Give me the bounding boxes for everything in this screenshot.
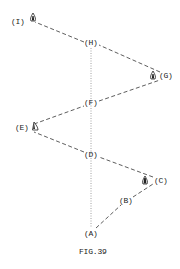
dashed-segment-d-e bbox=[34, 132, 84, 152]
dashed-segment-c-d bbox=[99, 157, 153, 177]
drop-shaped-marker-icon bbox=[151, 71, 156, 79]
dashed-segment-a-b bbox=[96, 205, 121, 228]
point-label-e: (E) bbox=[15, 124, 29, 132]
point-label-h: (H) bbox=[84, 39, 98, 47]
point-label-c: (C) bbox=[154, 177, 168, 185]
dashed-segment-g-h bbox=[99, 45, 160, 72]
drop-shaped-marker-icon bbox=[143, 176, 148, 184]
figure-canvas: (I) (H) (G) (F) (E) (D) (C) (B) (A) FIG.… bbox=[0, 0, 180, 269]
point-label-a: (A) bbox=[84, 230, 98, 238]
point-label-i: (I) bbox=[11, 18, 25, 26]
dashed-segment-b-c bbox=[133, 184, 153, 197]
drop-shaped-marker-icon bbox=[31, 13, 36, 21]
dashed-segment-f-g bbox=[99, 80, 160, 101]
point-label-b: (B) bbox=[119, 197, 133, 205]
point-label-f: (F) bbox=[84, 99, 98, 107]
dashed-segment-h-i bbox=[35, 22, 84, 42]
point-label-g: (G) bbox=[159, 72, 173, 80]
figure-caption: FIG.39 bbox=[79, 248, 107, 256]
dashed-segment-e-f bbox=[34, 106, 84, 124]
point-label-d: (D) bbox=[84, 151, 98, 159]
